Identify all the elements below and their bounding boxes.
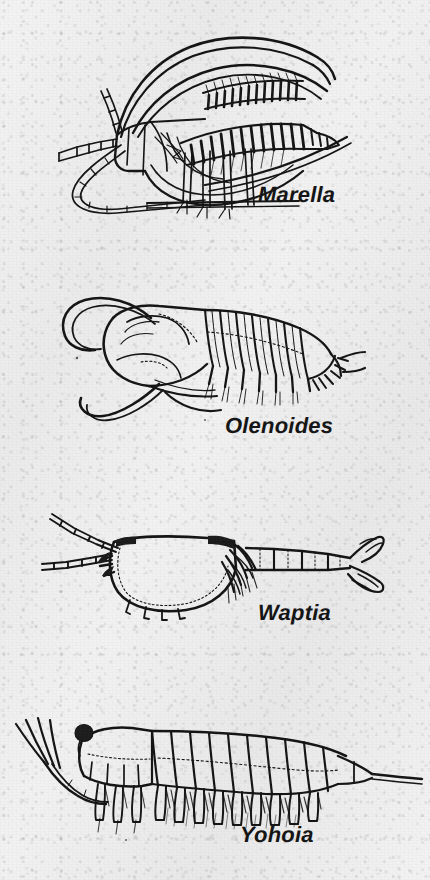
label-yohoia: Yohoia [240, 822, 314, 848]
figure-olenoides [55, 288, 365, 428]
figure-yohoia [8, 712, 423, 842]
figure-waptia [40, 508, 385, 618]
illustration-plate: Marella [0, 0, 430, 880]
label-waptia: Waptia [258, 600, 331, 626]
label-marella: Marella [258, 182, 335, 208]
label-olenoides: Olenoides [225, 413, 333, 439]
